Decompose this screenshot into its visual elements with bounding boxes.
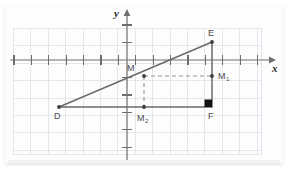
right-angle-marker (205, 100, 213, 108)
point-label-F: F (208, 112, 214, 121)
point-label-E: E (208, 29, 214, 38)
coordinate-plane: D E F M M1 M2 (13, 28, 262, 155)
point-label-M2-base: M (137, 113, 145, 123)
point-label-M1-subscript: 1 (226, 76, 229, 82)
segment-DE (59, 42, 212, 107)
point-M2 (142, 105, 146, 109)
point-M1 (210, 74, 214, 78)
point-label-M2: M2 (137, 114, 148, 123)
point-label-D: D (54, 112, 61, 121)
point-E (210, 40, 214, 44)
point-label-M2-subscript: 2 (145, 118, 148, 124)
point-D (57, 105, 61, 109)
x-axis-label: x (272, 63, 278, 74)
point-label-M: M (127, 64, 135, 73)
point-label-M1-base: M (218, 71, 226, 81)
point-M (142, 74, 146, 78)
point-label-M1: M1 (218, 72, 229, 81)
shape-layer (13, 28, 262, 155)
y-axis-label: y (114, 8, 119, 19)
geometry-figure: D E F M M1 M2 y x (0, 0, 291, 172)
card-shadow (8, 160, 280, 165)
